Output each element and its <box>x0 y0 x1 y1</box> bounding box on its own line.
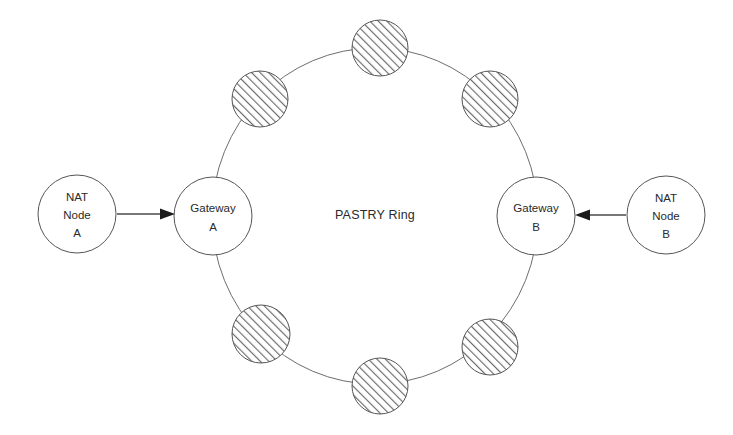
nat-node-b[interactable]: NAT Node B <box>627 176 705 254</box>
nat-node-b-label-line1: NAT <box>655 192 677 204</box>
arrow-head-right <box>160 209 175 220</box>
ring-node-lower-left[interactable] <box>232 305 290 363</box>
nat-node-b-label-line3: B <box>662 228 670 240</box>
ring-center-label: PASTRY Ring <box>335 208 415 222</box>
gateway-b-label-line2: B <box>532 221 540 233</box>
nat-node-a[interactable]: NAT Node A <box>38 175 116 253</box>
connection-nat-a-to-gateway-a <box>117 209 175 220</box>
ring-node-lower-right[interactable] <box>462 319 518 375</box>
gateway-b-label-line1: Gateway <box>513 202 559 214</box>
arrow-head-left <box>575 210 590 221</box>
gateway-b-circle[interactable] <box>497 177 575 255</box>
ring-node-upper-right[interactable] <box>462 71 518 127</box>
pastry-ring-diagram: PASTRY Ring Gateway A Gateway B NAT Node <box>0 0 733 435</box>
ring-node-upper-left[interactable] <box>232 71 288 127</box>
ring-node-bottom[interactable] <box>352 358 408 414</box>
nat-node-a-label-line3: A <box>73 227 81 239</box>
gateway-a-node[interactable]: Gateway A <box>174 177 252 255</box>
gateway-a-label-line1: Gateway <box>190 202 236 214</box>
nat-node-a-label-line1: NAT <box>66 191 88 203</box>
nat-node-a-label-line2: Node <box>63 209 91 221</box>
ring-node-top[interactable] <box>352 20 408 76</box>
diagram-canvas: PASTRY Ring Gateway A Gateway B NAT Node <box>0 0 733 435</box>
gateway-b-node[interactable]: Gateway B <box>497 177 575 255</box>
gateway-a-circle[interactable] <box>174 177 252 255</box>
nat-node-b-label-line2: Node <box>652 210 680 222</box>
gateway-a-label-line2: A <box>209 221 217 233</box>
connection-nat-b-to-gateway-b <box>575 210 626 221</box>
